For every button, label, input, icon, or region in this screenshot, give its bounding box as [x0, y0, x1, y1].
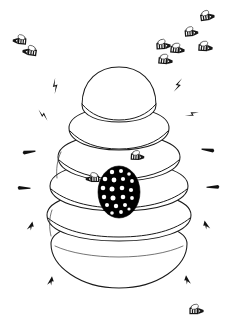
bee-top-left-1 — [12, 33, 26, 44]
buzz-bolt-left-mid — [36, 109, 50, 120]
hive-entrance-oval — [98, 166, 140, 218]
bee-top-right-5 — [156, 38, 171, 50]
bee-bottom-right — [189, 303, 203, 314]
buzz-arrow-left-low — [25, 221, 36, 232]
bee-top-right-2 — [184, 25, 198, 36]
buzz-dash-left-2 — [18, 186, 31, 190]
buzz-bolt-right-upper — [174, 77, 183, 93]
bee-top-right-4 — [170, 42, 185, 54]
buzz-dash-left-1 — [22, 149, 35, 155]
bee-top-right-6 — [158, 53, 173, 65]
artwork-canvas: Beehive with Bees Black and white line d… — [0, 0, 238, 328]
beehive-illustration — [0, 0, 238, 328]
hive-entrance[interactable] — [98, 166, 140, 218]
buzz-dash-right-2 — [206, 185, 219, 189]
buzz-bolt-left-upper — [50, 78, 60, 94]
bee-top-right-3 — [198, 40, 213, 52]
buzz-arrow-right-bot — [182, 275, 193, 286]
buzz-arrow-right-low — [201, 220, 212, 231]
buzz-arrow-left-bot — [45, 276, 56, 287]
buzz-bolt-right-mid — [185, 108, 199, 119]
bee-top-right-1 — [199, 8, 215, 21]
buzz-dash-right-1 — [201, 147, 214, 153]
bee-top-left-2 — [22, 43, 38, 56]
